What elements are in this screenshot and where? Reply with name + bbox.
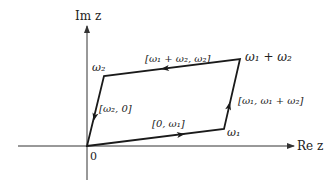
parallelogram-diagram: Im z Re z 0 ω₂ ω₁ + ω₂ ω₁ [ω₁ + ω₂, ω₂] …	[0, 0, 330, 187]
origin-label: 0	[90, 150, 97, 163]
x-axis-label: Re z	[297, 139, 323, 153]
edge-label-bottom: [0, ω₁]	[152, 118, 185, 129]
edge-label-right: [ω₁, ω₁ + ω₂]	[238, 95, 303, 106]
vertex-label-w1: ω₁	[227, 126, 240, 139]
edge-label-top: [ω₁ + ω₂, ω₂]	[145, 53, 210, 64]
vertex-label-w2: ω₂	[92, 61, 105, 74]
vertex-label-w1-plus-w2: ω₁ + ω₂	[245, 50, 292, 64]
y-axis-label: Im z	[75, 9, 101, 23]
edge-label-left: [ω₂, 0]	[99, 103, 132, 114]
